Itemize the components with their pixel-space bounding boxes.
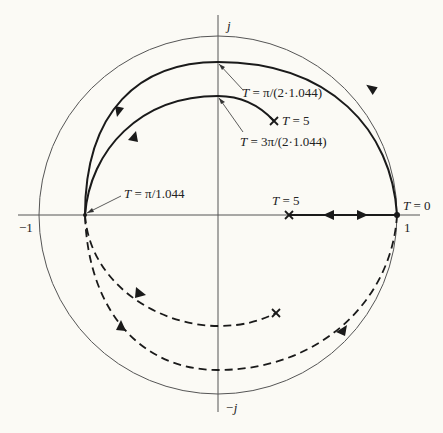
- label-t-0: T = 0: [403, 198, 431, 213]
- outer-dashed-locus: [85, 215, 397, 370]
- inner-dashed-locus: [85, 215, 276, 326]
- label-t-5-upper: T = 5: [282, 113, 310, 128]
- pointer-head: [87, 208, 94, 213]
- root-locus-diagram: j −j −1 1 T = π/(2·1.044) T = 5 T = 3π/(…: [0, 0, 443, 433]
- arrow-icon: [115, 106, 124, 117]
- arrow-icon: [366, 83, 378, 95]
- imag-neg-label: −j: [225, 400, 238, 415]
- label-t-3pi-over-2: T = 3π/(2·1.044): [240, 134, 326, 149]
- pointer-head: [219, 98, 225, 104]
- label-t-pi: T = π/1.044: [124, 186, 185, 201]
- arrow-left-icon: [323, 210, 334, 220]
- arrow-icon: [128, 131, 138, 142]
- x-marker-lower: [272, 309, 280, 317]
- real-pos-label: 1: [404, 220, 411, 235]
- label-t-pi-over-2: T = π/(2·1.044): [242, 85, 322, 100]
- arrow-icon: [135, 287, 146, 298]
- arrow-right-icon: [357, 210, 368, 220]
- x-marker-upper: [270, 117, 278, 125]
- label-t-5-axis: T = 5: [272, 193, 300, 208]
- real-neg-label: −1: [19, 220, 33, 235]
- imag-pos-label: j: [225, 18, 231, 33]
